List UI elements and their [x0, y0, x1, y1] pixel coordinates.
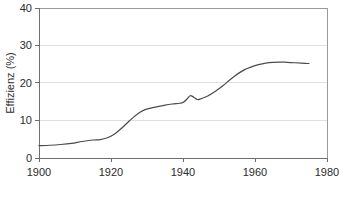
y-tick-label-10: 10	[20, 114, 32, 126]
x-tick-label-1960: 1960	[243, 166, 267, 178]
y-tick-label-30: 30	[20, 39, 32, 51]
x-tick-label-1980: 1980	[315, 166, 339, 178]
x-tick-label-1920: 1920	[99, 166, 123, 178]
x-tick-label-1900: 1900	[27, 166, 51, 178]
y-tick-label-20: 20	[20, 77, 32, 89]
y-axis-title: Effizienz (%)	[4, 52, 16, 114]
chart-container: 40 30 20 10 0 1900 1920 1940 1960 1980 E…	[0, 0, 348, 204]
efficiency-line-chart: 40 30 20 10 0 1900 1920 1940 1960 1980 E…	[0, 0, 348, 204]
y-tick-label-40: 40	[20, 2, 32, 14]
y-tick-label-0: 0	[26, 152, 32, 164]
x-tick-label-1940: 1940	[171, 166, 195, 178]
